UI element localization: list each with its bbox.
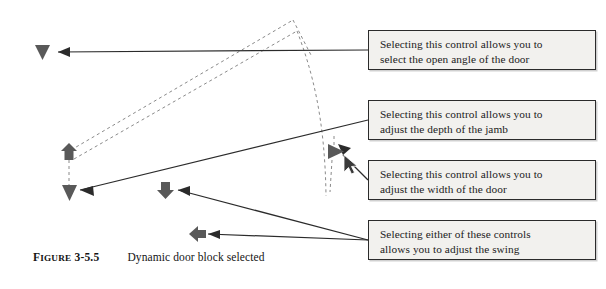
leader-swing-a xyxy=(178,190,368,240)
jamb-dashed-axis-lower xyxy=(330,160,332,192)
figure-label: FIGURE 3-5.5 xyxy=(33,251,99,263)
callout-door-width-line2: adjust the width of the door xyxy=(380,182,586,197)
mouse-cursor-icon xyxy=(344,155,357,174)
grip-open-angle-triangle[interactable] xyxy=(35,45,50,60)
callout-swing[interactable]: Selecting either of these controls allow… xyxy=(368,220,596,260)
callout-swing-line1: Selecting either of these controls xyxy=(380,227,586,242)
leader-lines xyxy=(58,50,368,240)
callout-open-angle-line2: select the open angle of the door xyxy=(380,52,586,67)
arrowhead-jamb-depth xyxy=(80,186,94,196)
callout-open-angle-line1: Selecting this control allows you to xyxy=(380,37,586,52)
callout-door-width[interactable]: Selecting this control allows you to adj… xyxy=(368,160,596,200)
callout-jamb-depth-line1: Selecting this control allows you to xyxy=(380,107,586,122)
mouse-cursor xyxy=(344,155,357,174)
grip-jamb-triangle-down[interactable] xyxy=(62,185,77,201)
door-swing-arc xyxy=(297,31,326,196)
callout-open-angle[interactable]: Selecting this control allows you to sel… xyxy=(368,30,596,70)
callout-swing-line2: allows you to adjust the swing xyxy=(380,242,586,257)
grip-swing-arrow-left[interactable] xyxy=(189,226,206,242)
figure-page: Selecting this control allows you to sel… xyxy=(0,0,606,289)
leader-open-angle xyxy=(58,50,368,52)
arrowhead-open-angle xyxy=(58,47,70,57)
callout-jamb-depth-line2: adjust the depth of the jamb xyxy=(380,122,586,137)
arrowhead-swing-b xyxy=(208,230,220,239)
door-leaf-end-cap xyxy=(293,20,312,57)
figure-caption: FIGURE 3-5.5Dynamic door block selected xyxy=(33,251,265,263)
dashed-door-geometry xyxy=(69,20,334,196)
figure-label-rest: IGURE xyxy=(40,253,71,263)
leader-swing-b xyxy=(208,234,368,240)
callout-door-width-line1: Selecting this control allows you to xyxy=(380,167,586,182)
figure-title: Dynamic door block selected xyxy=(127,251,264,263)
grip-hinge-arrow-up[interactable] xyxy=(61,143,77,160)
callout-jamb-depth[interactable]: Selecting this control allows you to adj… xyxy=(368,100,596,140)
door-panel-edge-upper xyxy=(71,20,293,150)
grip-swing-arrow-down[interactable] xyxy=(157,182,174,199)
figure-number: 3-5.5 xyxy=(74,251,99,263)
